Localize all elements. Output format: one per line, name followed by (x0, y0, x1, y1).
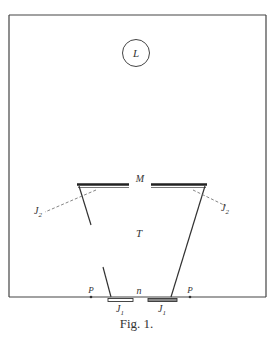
opening-label: n (137, 285, 142, 296)
trapezoid-label: T (136, 227, 143, 239)
j1-plates (108, 299, 177, 302)
figure-caption: Fig. 1. (0, 316, 273, 332)
mirror-label: M (135, 173, 145, 184)
trapezoid-walls (79, 186, 205, 297)
j2-dashed-lines (45, 190, 226, 212)
j1-right-label: J1 (158, 303, 166, 317)
point-right-label: P (186, 285, 193, 295)
j2-left-label: J2 (34, 205, 42, 219)
point-left-label: P (87, 285, 94, 295)
j1-left-label: J1 (116, 303, 124, 317)
lamp: L (123, 40, 150, 67)
mirror: M (77, 173, 207, 188)
lamp-label: L (132, 47, 139, 59)
diagram: L M J2 J2 T n J1 J1 P P (0, 0, 273, 340)
j2-right-label: J2 (221, 202, 229, 216)
